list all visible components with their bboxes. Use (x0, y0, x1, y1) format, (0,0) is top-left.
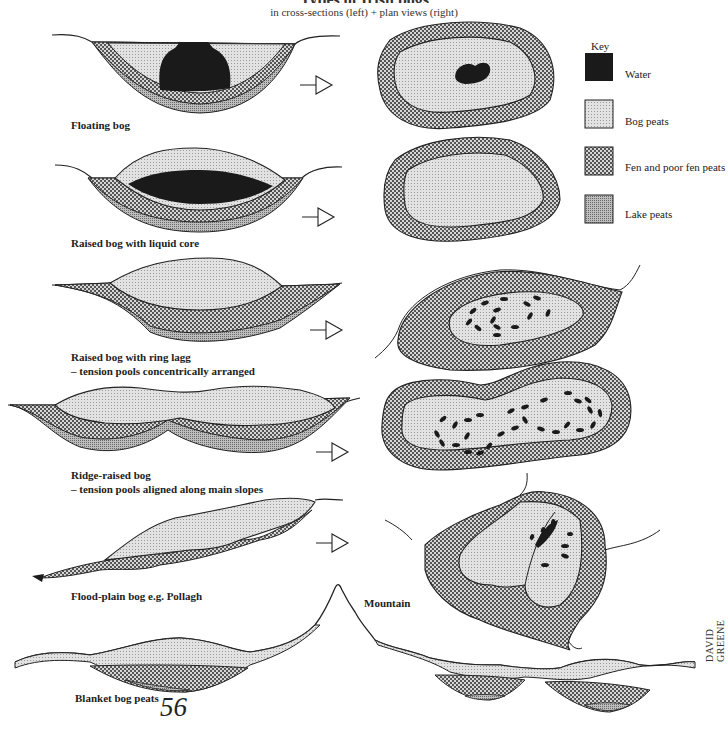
flood-plain-bog-plan (385, 473, 660, 650)
key-bog-peats-swatch (585, 100, 613, 128)
key-label-bog-peats: Bog peats (625, 115, 669, 127)
label-ridge-raised-bog: Ridge-raised bog (71, 468, 151, 482)
raised-bog-ring-lagg-section (52, 258, 342, 341)
label-raised-bog-liquid-core: Raised bog with liquid core (71, 236, 199, 250)
label-flood-plain-bog: Flood-plain bog e.g. Pollagh (71, 589, 202, 603)
key-title: Key (591, 40, 609, 52)
label-raised-bog-ring-lagg: Raised bog with ring lagg (71, 350, 191, 364)
raised-bog-liquid-core-section (55, 148, 342, 232)
note-raised-bog-ring-lagg: – tension pools concentrically arranged (71, 364, 255, 378)
floating-bog-plan (378, 22, 554, 128)
key-label-fen-peats: Fen and poor fen peats (625, 161, 725, 173)
key-water-swatch (585, 53, 613, 81)
flood-plain-bog-section (32, 498, 348, 582)
raised-bog-ring-lagg-plan (375, 265, 640, 370)
page-number: 56 (160, 692, 187, 723)
note-ridge-raised-bog: – tension pools aligned along main slope… (71, 482, 263, 496)
page-title-partial: Types of Irish bogs (300, 0, 430, 3)
key-label-lake-peats: Lake peats (625, 208, 672, 220)
key-lake-peats-swatch (585, 195, 613, 223)
ridge-raised-bog-plan (382, 362, 631, 470)
subtitle: in cross-sections (left) + plan views (r… (0, 6, 728, 18)
key-label-water: Water (625, 68, 651, 80)
label-blanket-bog: Blanket bog peats (75, 691, 159, 705)
key-fen-peats-swatch (585, 147, 613, 175)
raised-bog-liquid-core-plan (384, 137, 560, 241)
label-mountain: Mountain (364, 596, 410, 610)
credit: DAVID GREENE (704, 620, 726, 662)
label-floating-bog: Floating bog (71, 118, 130, 132)
floating-bog-section (52, 35, 340, 113)
ridge-raised-bog-section (8, 386, 360, 461)
legend-swatches (585, 53, 613, 223)
